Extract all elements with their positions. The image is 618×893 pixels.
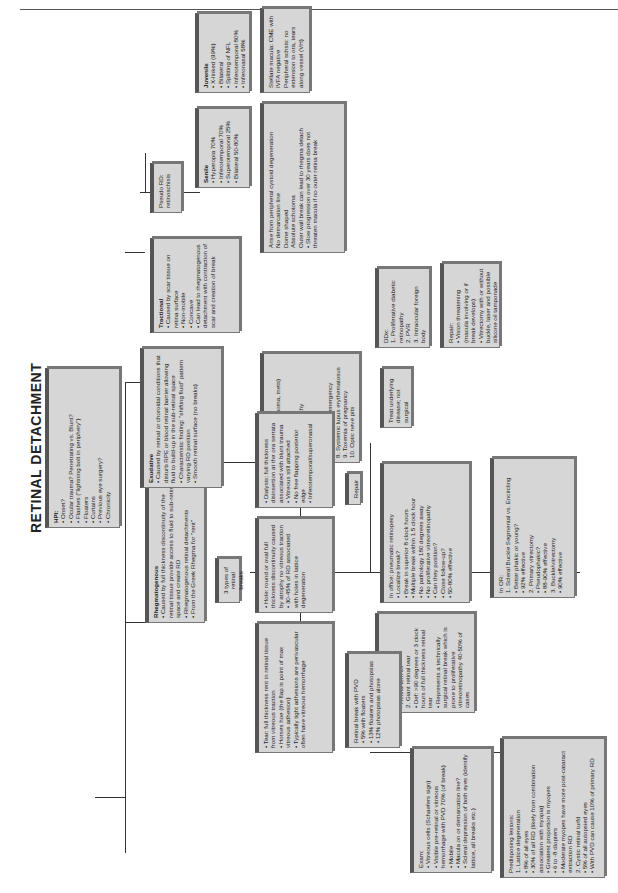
tear-item: • Typically tight adhesions are perivasc… xyxy=(292,628,307,748)
in-or-heading: In OR: xyxy=(497,463,504,593)
juvenile-item: • X-linked (99%) xyxy=(209,18,216,88)
hole-item: • Hole: round or oval full thickness dis… xyxy=(262,523,284,608)
repair-label: Repair xyxy=(352,478,359,500)
pvd-item: • 13% floaters and photopsias xyxy=(367,658,374,743)
juvenile-detail-item: Stellate macula: CME with IVFA negative xyxy=(267,13,282,88)
in-office-item: • Can they position? xyxy=(431,468,438,598)
in-office-item: • Localize break? xyxy=(394,468,401,598)
hpi-item: • Ocular trauma? Penetrating vs. Blunt? xyxy=(67,373,74,523)
exudative-box: Exudative • Caused by retinal or choroid… xyxy=(140,348,222,488)
senile-detail-item: Outer wall break can lead to rhegma deta… xyxy=(297,108,304,248)
in-office-item: • Close follow-up? xyxy=(439,468,446,598)
hpi-item: • Chronicity xyxy=(104,373,111,523)
dialysis-item: • Inferotemporal/superonasal xyxy=(306,418,313,503)
tractional-item: • Concave xyxy=(187,243,194,328)
dialysis-item: • Vitreous still attached xyxy=(284,418,291,503)
tractional-repair-box: Repair: • Vision threatening (macula inv… xyxy=(440,263,500,348)
in-office-box: In office: pneumatic retinopexy • Locali… xyxy=(380,463,470,603)
ddx-item: 8. Systemic lupus erythematosus xyxy=(334,358,341,458)
predisposing-item: • Greatest proportion is myopes xyxy=(544,743,551,873)
exudative-heading: Exudative xyxy=(147,353,154,483)
treat-underlying-label: Treat underlying disease; not surgical xyxy=(387,373,409,423)
in-or-box: In OR: 1. Scleral Buckle Segmental vs. E… xyxy=(490,458,575,598)
exam-box: Exam: • Vitreous cells (Schaefers sign) … xyxy=(410,748,492,873)
exam-heading: Exam: xyxy=(417,753,424,868)
dialysis-item: • Dialysis: full thickness disinsertion … xyxy=(262,418,284,503)
in-office-item: • Multiple break within 1.5 clock hour xyxy=(409,468,416,598)
tractional-item: • Non-mobile xyxy=(179,243,186,328)
hpi-heading: HPI: xyxy=(52,373,59,523)
in-or-item: • Pseudophakic? xyxy=(534,463,541,593)
senile-box: Senile • Hyperopia 70% • Inferotemporal … xyxy=(195,108,250,188)
predisposing-item: 2. Cystic retinal turfd xyxy=(574,743,581,873)
diagram-canvas: RETINAL DETACHMENT HPI: • Onset? • Ocula… xyxy=(0,0,618,893)
predisposing-item: • 5% of all autopsied eyes xyxy=(581,743,588,873)
exam-item: • Visible pre-retinal or vitreous hemorr… xyxy=(432,753,447,868)
in-office-item: • No pathology 180 degrees away xyxy=(417,468,424,598)
connector xyxy=(125,622,145,623)
other-breaks-item: • Def: >90 degrees or 3 clock hours of f… xyxy=(412,618,434,708)
in-or-item: 3. Buckle/vitrectomy xyxy=(549,463,556,593)
tractional-ddx-heading: DDx: xyxy=(382,273,389,343)
hpi-item: • Floaters xyxy=(82,373,89,523)
senile-detail-item: No demarcation line xyxy=(274,108,281,248)
connector xyxy=(370,443,371,573)
predisposing-item: 1. Lattice degeneration xyxy=(514,743,521,873)
tractional-ddx-item: 2. PVR xyxy=(404,273,411,343)
in-or-item: 1. Scleral Buckle Segmental vs. Encircli… xyxy=(504,463,511,593)
connector xyxy=(125,252,145,253)
tractional-heading: Tractional xyxy=(157,243,164,328)
exam-item: • Mobile xyxy=(447,753,454,868)
in-office-item: • 50-80% effective xyxy=(446,468,453,598)
juvenile-item: • Inferonasal 58% xyxy=(239,18,246,88)
senile-detail-item: • Slow progression over 30 years does no… xyxy=(304,108,319,248)
rhegmatogenous-item: • From the Greek Rhegma for "rent" xyxy=(189,478,196,618)
hole-box: • Hole: round or oval full thickness dis… xyxy=(255,518,333,613)
rhegmatogenous-item: • Rhegmatogenous retinal detachments xyxy=(182,478,189,618)
tractional-repair-item: • Vision threatening (macula involving o… xyxy=(454,268,476,343)
senile-item: • Superotemporal 25% xyxy=(224,113,231,183)
senile-detail-item: Arise from peripheral cystoid degenerati… xyxy=(267,108,274,248)
exam-item: • Macula on or demarcation line? xyxy=(454,753,461,868)
senile-item: • Hyperopia 70% xyxy=(209,113,216,183)
senile-detail-item: Dome shaped xyxy=(282,108,289,248)
hpi-item: • Onset? xyxy=(59,373,66,523)
in-or-item: • 92% effective xyxy=(519,463,526,593)
juvenile-item: • Inferotemporal 80% xyxy=(232,18,239,88)
juvenile-detail-box: Stellate macula: CME with IVFA negative … xyxy=(260,8,310,93)
three-types-box: 3 types of retinal breaks xyxy=(215,558,240,603)
retinal-break-pvd-box: Retinal break with PVD • 5% with floater… xyxy=(345,653,400,748)
predisposing-item: • 6 to -8 diopters xyxy=(551,743,558,873)
hpi-item: • Flashes ("lightning bolt in periphery"… xyxy=(74,373,81,523)
exam-item: • Scleral depression of both eyes (ident… xyxy=(461,753,476,868)
predisposing-item: • 30% of all RD (likely from combination… xyxy=(529,743,544,873)
juvenile-item: • Bilateral xyxy=(217,18,224,88)
treat-underlying-box: Treat underlying disease; not surgical xyxy=(380,368,412,428)
pvd-item: • 12% photopsias alone xyxy=(374,658,381,743)
predisposing-item: • Moderate myopes have more post-catarac… xyxy=(559,743,574,873)
predisposing-item: • 8% of all eyes xyxy=(522,743,529,873)
hpi-box: HPI: • Onset? • Ocular trauma? Penetrati… xyxy=(45,368,120,528)
tractional-repair-item: • Vitrectomy with or without buckle, las… xyxy=(477,268,499,343)
senile-item: • Bilateral 50-80% xyxy=(232,113,239,183)
ddx-item: 9. Toxemia of pregnancy xyxy=(341,358,348,458)
rhegmatogenous-item: • Caused by full thickness discontinuity… xyxy=(159,478,181,618)
tractional-ddx-item: 1. Proliferative diabetic retinopathy xyxy=(389,273,404,343)
connector xyxy=(125,383,126,853)
in-or-item: • 90% effective xyxy=(556,463,563,593)
tractional-ddx-item: 3. Intraocular foreign body xyxy=(412,273,427,343)
retinal-break-pvd-heading: Retinal break with PVD xyxy=(352,658,359,743)
three-types-label: 3 types of retinal breaks xyxy=(222,563,244,598)
hole-item: • 30-45% of RD associated with holes in … xyxy=(284,523,306,608)
pseudo-rd-label: Pseudo RD: retinoschisis xyxy=(157,168,172,208)
tractional-item: • Caused by scar tissue on retina surfac… xyxy=(164,243,179,328)
dialysis-box: • Dialysis: full thickness disinsertion … xyxy=(255,413,333,508)
predisposing-box: Predisposing lesions: 1. Lattice degener… xyxy=(500,738,605,878)
senile-heading: Senile xyxy=(202,113,209,183)
in-or-item: 2. Primary vitrectomy xyxy=(527,463,534,593)
tractional-box: Tractional • Caused by scar tissue on re… xyxy=(150,238,240,333)
tractional-item: • Can lead to rhegmatogenous detachment … xyxy=(194,243,216,328)
exam-item: • Vitreous cells (Schaefers sign) xyxy=(424,753,431,868)
in-office-heading: In office: pneumatic retinopexy xyxy=(387,468,394,598)
juvenile-box: Juvenile • X-linked (99%) • Bilateral • … xyxy=(195,13,250,93)
